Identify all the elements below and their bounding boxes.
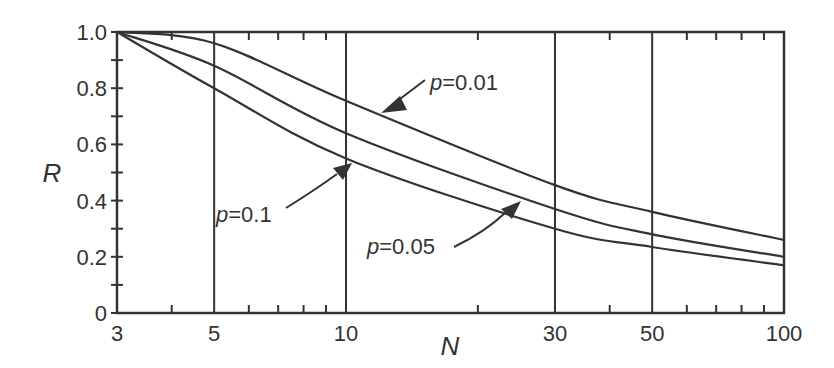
svg-text:p=0.05: p=0.05 (366, 234, 435, 259)
x-tick-label: 5 (208, 321, 220, 346)
x-axis-title: N (441, 331, 460, 361)
x-tick-label: 30 (543, 321, 567, 346)
x-tick-label: 100 (766, 321, 803, 346)
y-tick-label: 0.4 (76, 189, 107, 214)
x-tick-label: 3 (111, 321, 123, 346)
y-axis-title: R (43, 158, 62, 188)
y-tick-label: 0.6 (76, 132, 107, 157)
annotation-p-symbol: p (429, 70, 442, 95)
chart: 35103050100 00.20.40.60.81.0 N R p=0.01 … (0, 0, 834, 368)
svg-text:p=0.01: p=0.01 (429, 70, 498, 95)
y-tick-label: 0.8 (76, 76, 107, 101)
y-tick-label: 0.2 (76, 245, 107, 270)
y-tick-labels: 00.20.40.60.81.0 (76, 20, 107, 326)
y-tick-label: 0 (95, 301, 107, 326)
y-tick-label: 1.0 (76, 20, 107, 45)
annotation-p01: p=0.1 (215, 163, 352, 227)
arrow-icon (333, 163, 352, 180)
arrow-icon (381, 96, 407, 113)
curves (117, 32, 784, 265)
annotation-p005: p=0.05 (366, 201, 521, 259)
annotation-p001: p=0.01 (381, 70, 498, 113)
x-tick-label: 50 (640, 321, 664, 346)
arrow-icon (501, 201, 521, 219)
x-tick-label: 10 (334, 321, 358, 346)
svg-text:p=0.1: p=0.1 (215, 202, 272, 227)
